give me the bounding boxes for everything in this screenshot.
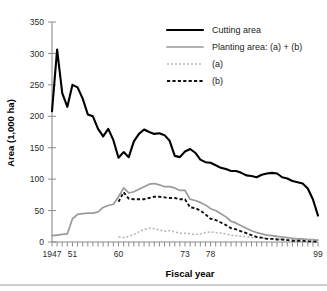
x-tick-label: 73 [180, 249, 190, 259]
y-tick-label: 300 [30, 49, 44, 59]
legend-label-3: (b) [212, 76, 223, 86]
y-tick-label: 0 [39, 237, 44, 247]
legend-label-2: (a) [212, 59, 223, 69]
y-tick-label: 350 [30, 17, 44, 27]
x-tick-label: 78 [206, 249, 216, 259]
y-tick-label: 250 [30, 80, 44, 90]
y-tick-label: 50 [35, 206, 45, 216]
figure-container: 050100150200250300350 19475160737899 Are… [0, 0, 327, 291]
y-tick-label: 200 [30, 111, 44, 121]
x-tick-label: 60 [114, 249, 124, 259]
y-axis-title: Area (1,000 ha) [5, 99, 16, 167]
line-chart: 050100150200250300350 19475160737899 Are… [0, 0, 327, 291]
x-tick-label: 99 [313, 249, 323, 259]
x-axis-title: Fiscal year [165, 268, 214, 279]
legend-label-0: Cutting area [212, 25, 261, 35]
y-tick-label: 100 [30, 174, 44, 184]
y-tick-label: 150 [30, 143, 44, 153]
x-tick-label: 51 [68, 249, 78, 259]
x-tick-label: 1947 [43, 249, 62, 259]
legend-label-1: Planting area: (a) + (b) [212, 42, 302, 52]
